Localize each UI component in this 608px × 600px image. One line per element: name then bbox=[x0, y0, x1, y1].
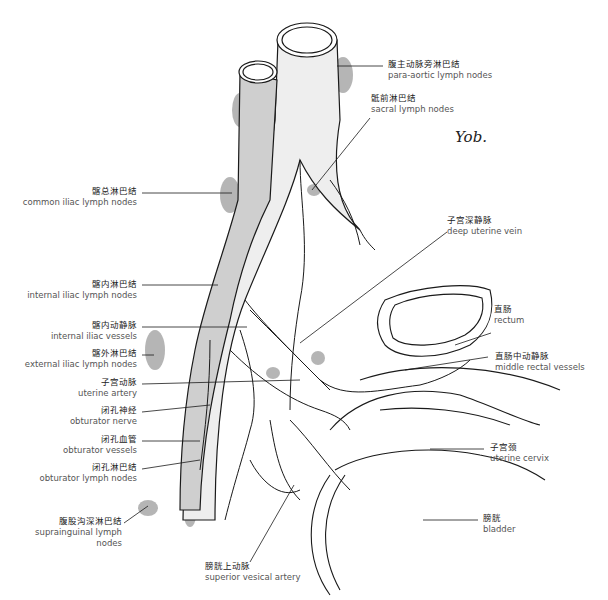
label-deep-uterine-vein: 子宫深静脉 deep uterine vein bbox=[447, 215, 522, 237]
label-zh: 直肠 bbox=[494, 304, 524, 315]
label-en: uterine cervix bbox=[490, 453, 549, 464]
label-en: internal iliac vessels bbox=[51, 331, 137, 342]
anatomy-diagram: 腹主动脉旁淋巴结 para-aortic lymph nodes 骶前淋巴结 s… bbox=[0, 0, 608, 600]
label-middle-rectal-vessels: 直肠中动静脉 middle rectal vessels bbox=[495, 351, 585, 373]
label-en: bladder bbox=[483, 524, 515, 535]
label-en: obturator vessels bbox=[63, 445, 137, 456]
label-obturator-lymph-nodes: 闭孔淋巴结 obturator lymph nodes bbox=[39, 462, 137, 484]
label-zh: 髂内淋巴结 bbox=[27, 279, 137, 290]
label-en: rectum bbox=[494, 315, 524, 326]
label-zh: 闭孔淋巴结 bbox=[39, 462, 137, 473]
label-bladder: 膀胱 bladder bbox=[483, 513, 515, 535]
label-en: internal iliac lymph nodes bbox=[27, 290, 137, 301]
label-zh: 子宫动脉 bbox=[78, 377, 137, 388]
label-zh: 腹股沟深淋巴结 bbox=[22, 516, 122, 527]
label-en: common iliac lymph nodes bbox=[23, 197, 137, 208]
label-en: external iliac lymph nodes bbox=[25, 359, 137, 370]
label-zh: 闭孔血管 bbox=[63, 434, 137, 445]
label-zh: 膀胱 bbox=[483, 513, 515, 524]
label-external-iliac-lymph-nodes: 髂外淋巴结 external iliac lymph nodes bbox=[25, 348, 137, 370]
organs bbox=[311, 286, 560, 595]
label-sacral-lymph-nodes: 骶前淋巴结 sacral lymph nodes bbox=[371, 93, 454, 115]
label-zh: 直肠中动静脉 bbox=[495, 351, 585, 362]
label-suprainguinal-lymph-nodes: 腹股沟深淋巴结 suprainguinal lymph nodes bbox=[22, 516, 122, 549]
label-uterine-cervix: 子宫颈 uterine cervix bbox=[490, 442, 549, 464]
label-en: middle rectal vessels bbox=[495, 362, 585, 373]
label-internal-iliac-lymph-nodes: 髂内淋巴结 internal iliac lymph nodes bbox=[27, 279, 137, 301]
label-en: para-aortic lymph nodes bbox=[388, 70, 492, 81]
vena-cava-and-iliac-veins bbox=[180, 61, 277, 510]
label-zh: 腹主动脉旁淋巴结 bbox=[388, 59, 492, 70]
label-zh: 膀胱上动脉 bbox=[205, 561, 300, 572]
label-zh: 闭孔神经 bbox=[70, 405, 137, 416]
label-zh: 子宫深静脉 bbox=[447, 215, 522, 226]
label-zh: 骶前淋巴结 bbox=[371, 93, 454, 104]
label-en: uterine artery bbox=[78, 388, 137, 399]
label-en: deep uterine vein bbox=[447, 226, 522, 237]
label-zh: 子宫颈 bbox=[490, 442, 549, 453]
label-para-aortic-lymph-nodes: 腹主动脉旁淋巴结 para-aortic lymph nodes bbox=[388, 59, 492, 81]
label-en: suprainguinal lymph nodes bbox=[22, 527, 122, 549]
label-en: obturator nerve bbox=[70, 416, 137, 427]
label-en: superior vesical artery bbox=[205, 572, 300, 583]
label-internal-iliac-vessels: 髂内动静脉 internal iliac vessels bbox=[51, 320, 137, 342]
label-superior-vesical-artery: 膀胱上动脉 superior vesical artery bbox=[205, 561, 300, 583]
label-common-iliac-lymph-nodes: 髂总淋巴结 common iliac lymph nodes bbox=[23, 186, 137, 208]
label-en: sacral lymph nodes bbox=[371, 104, 454, 115]
label-obturator-nerve: 闭孔神经 obturator nerve bbox=[70, 405, 137, 427]
label-zh: 髂内动静脉 bbox=[51, 320, 137, 331]
label-rectum: 直肠 rectum bbox=[494, 304, 524, 326]
label-zh: 髂外淋巴结 bbox=[25, 348, 137, 359]
label-uterine-artery: 子宫动脉 uterine artery bbox=[78, 377, 137, 399]
label-en: obturator lymph nodes bbox=[39, 473, 137, 484]
artist-signature: Yob. bbox=[455, 128, 487, 146]
label-zh: 髂总淋巴结 bbox=[23, 186, 137, 197]
label-obturator-vessels: 闭孔血管 obturator vessels bbox=[63, 434, 137, 456]
